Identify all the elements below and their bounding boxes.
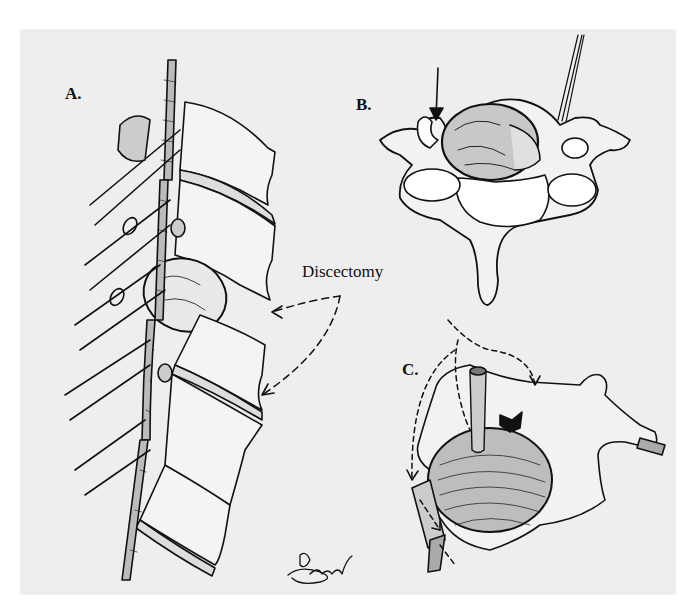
panel-b-label: B. [356, 95, 372, 115]
arrow-head-icon [262, 384, 274, 395]
panel-a-label: A. [65, 84, 82, 104]
arrow-head-icon [272, 306, 282, 318]
panel-c-vertebra-drawing [407, 320, 665, 572]
medical-illustration [0, 0, 699, 616]
panel-c-label: C. [402, 360, 419, 380]
artist-signature [288, 553, 352, 583]
panel-b-vertebra-drawing [380, 35, 630, 305]
panel-a-spine-drawing [65, 60, 275, 580]
surgical-instrument [558, 35, 584, 122]
discectomy-callout: Discectomy [302, 262, 383, 282]
